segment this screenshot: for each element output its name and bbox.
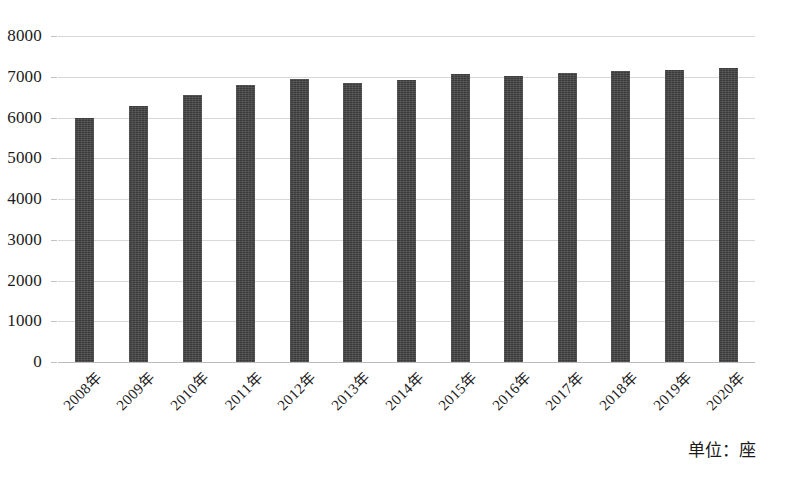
bar bbox=[451, 74, 470, 362]
y-axis-tick-label: 8000 bbox=[0, 27, 42, 44]
y-axis-tick-mark bbox=[51, 281, 57, 282]
y-axis-tick-mark bbox=[51, 118, 57, 119]
x-axis-tick-label: 2010年 bbox=[168, 370, 211, 413]
bar bbox=[719, 68, 738, 362]
unit-caption: 单位：座 bbox=[688, 442, 756, 460]
bar bbox=[75, 118, 94, 362]
bar bbox=[665, 70, 684, 362]
y-axis-tick-label: 4000 bbox=[0, 190, 42, 207]
bar bbox=[290, 79, 309, 362]
bar bbox=[236, 85, 255, 362]
y-axis-tick-label: 6000 bbox=[0, 109, 42, 126]
x-axis-tick-label: 2008年 bbox=[61, 370, 104, 413]
y-axis-tick-label: 5000 bbox=[0, 149, 42, 166]
gridline bbox=[58, 362, 755, 363]
x-axis-tick-label: 2009年 bbox=[115, 370, 158, 413]
bar bbox=[129, 106, 148, 362]
y-axis-tick-mark bbox=[51, 321, 57, 322]
x-axis-tick-label: 2015年 bbox=[436, 370, 479, 413]
plot-area bbox=[58, 30, 755, 368]
gridline bbox=[58, 36, 755, 37]
y-axis-tick-label: 1000 bbox=[0, 312, 42, 329]
bar bbox=[611, 71, 630, 362]
y-axis-tick-label: 0 bbox=[0, 353, 42, 370]
y-axis-tick-mark bbox=[51, 158, 57, 159]
x-axis-tick-label: 2012年 bbox=[275, 370, 318, 413]
x-axis-tick-label: 2013年 bbox=[329, 370, 372, 413]
y-axis-tick-mark bbox=[51, 362, 57, 363]
bar bbox=[397, 80, 416, 362]
y-axis-tick-label: 3000 bbox=[0, 231, 42, 248]
x-axis-tick-label: 2018年 bbox=[597, 370, 640, 413]
bar bbox=[504, 76, 523, 362]
y-axis-tick-mark bbox=[51, 77, 57, 78]
bar bbox=[558, 73, 577, 362]
y-axis-tick-mark bbox=[51, 240, 57, 241]
y-axis-tick-label: 2000 bbox=[0, 272, 42, 289]
x-axis-tick-label: 2020年 bbox=[704, 370, 747, 413]
x-axis-tick-label: 2016年 bbox=[490, 370, 533, 413]
gridline bbox=[58, 77, 755, 78]
x-axis-tick-label: 2011年 bbox=[222, 370, 265, 413]
y-axis-tick-mark bbox=[51, 199, 57, 200]
x-axis-tick-label: 2014年 bbox=[383, 370, 426, 413]
y-axis-tick-label: 7000 bbox=[0, 68, 42, 85]
bar bbox=[183, 95, 202, 362]
bar bbox=[343, 83, 362, 362]
bar-chart-figure: 单位：座 80007000600050004000300020001000020… bbox=[0, 0, 786, 486]
x-axis-tick-label: 2017年 bbox=[543, 370, 586, 413]
x-axis-tick-label: 2019年 bbox=[651, 370, 694, 413]
y-axis-tick-mark bbox=[51, 36, 57, 37]
